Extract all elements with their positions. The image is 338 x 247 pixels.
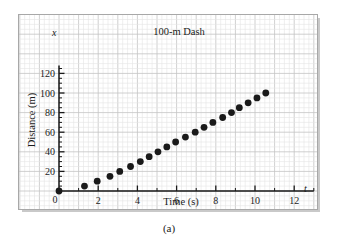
chart-title: 100-m Dash [153,26,205,37]
figure-container: 100-m Dash 02468101220406080100120 x t T… [0,0,338,247]
data-point [219,114,226,121]
x-axis-symbol: t [304,183,307,194]
chart-panel: 100-m Dash 02468101220406080100120 x t T… [18,14,318,210]
tick-label: 20 [45,166,55,177]
tick-label: 120 [40,68,55,79]
data-points-group [56,90,270,195]
data-point [127,163,134,170]
data-point [228,109,235,116]
tick-label: 0 [53,194,58,205]
tick-label: 2 [96,195,101,206]
plot-title-group: 100-m Dash [153,26,205,37]
tick-label: 4 [135,195,140,206]
data-point [254,95,261,102]
tick-label: 12 [289,195,299,206]
tick-label: 100 [40,88,55,99]
data-point [172,139,179,146]
tick-label: 8 [213,195,218,206]
data-point [192,129,199,136]
axes-group [59,66,314,191]
tick-label: 40 [45,146,55,157]
data-point [262,90,269,97]
tick-label: 10 [250,195,260,206]
tick-label: 80 [45,107,55,118]
data-point [245,99,252,106]
y-axis-symbol: x [51,27,57,38]
data-point [94,178,101,185]
data-point [81,183,88,190]
data-point [209,119,216,126]
data-point [146,153,153,160]
data-point [163,144,170,151]
scatter-plot: 100-m Dash 02468101220406080100120 x t T… [19,15,317,209]
data-point [236,104,243,111]
data-point [155,148,162,155]
data-point [107,173,114,180]
data-point [201,124,208,131]
axis-symbols-group: x t [51,27,307,194]
figure-caption: (a) [0,222,338,234]
y-axis-label: Distance (m) [26,92,38,147]
data-point [137,158,144,165]
tick-labels-group: 02468101220406080100120 [40,68,299,206]
data-point [56,188,63,195]
data-point [116,168,123,175]
tick-label: 60 [45,127,55,138]
data-point [182,134,189,141]
x-axis-label: Time (s) [163,196,199,208]
